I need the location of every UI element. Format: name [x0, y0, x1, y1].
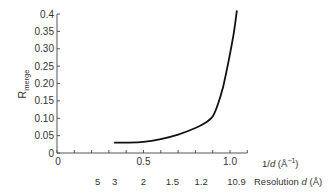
x-tick-label: 1.0 [223, 156, 237, 167]
resolution-tick-label: 1.2 [194, 176, 207, 187]
y-tick-label: 0 [48, 148, 54, 159]
resolution-tick-label: 2 [141, 176, 146, 187]
rmerge-curve [114, 11, 237, 143]
y-tick-label: 0.05 [35, 130, 55, 141]
x-tick-label: 0.5 [137, 156, 151, 167]
resolution-axis-label: Resolution d (Å) [254, 176, 322, 187]
y-tick-label: 0.35 [35, 26, 55, 37]
resolution-tick-label: 5 [95, 176, 100, 187]
y-tick-label: 0.30 [35, 43, 55, 54]
y-tick-label: 0.20 [35, 78, 55, 89]
y-tick-label: 0.4 [40, 9, 54, 20]
y-tick-label: 0.15 [35, 95, 55, 106]
resolution-tick-label: 0.9 [233, 176, 246, 187]
resolution-tick-label: 3 [112, 176, 117, 187]
y-tick-label: 0.25 [35, 61, 55, 72]
x-axis-label: 1/d (Å−1) [262, 157, 299, 169]
x-axis: 00.51.0 [55, 150, 247, 167]
resolution-axis: 5321.51.210.9 [95, 176, 246, 187]
resolution-tick-label: 1.5 [166, 176, 179, 187]
y-axis: 00.050.100.150.200.250.300.350.4 [35, 9, 60, 159]
rmerge-chart: 00.050.100.150.200.250.300.350.4 00.51.0… [0, 0, 336, 193]
x-tick-label: 0 [55, 156, 61, 167]
y-tick-label: 0.10 [35, 113, 55, 124]
y-axis-label: Rmerge [16, 70, 31, 99]
